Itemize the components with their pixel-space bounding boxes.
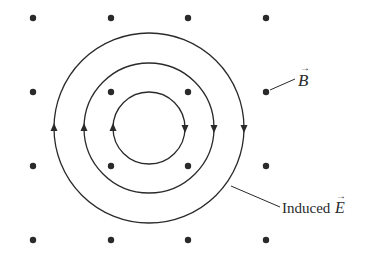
field-dot <box>108 89 114 95</box>
field-dot <box>108 237 114 243</box>
induced-e-circle-outer <box>51 33 248 223</box>
induced-e-circle-inner <box>110 92 189 164</box>
field-dot <box>108 15 114 21</box>
arrow-down-icon <box>241 125 248 133</box>
field-dot <box>30 163 36 169</box>
arrow-down-icon <box>211 125 218 133</box>
field-dot <box>263 237 269 243</box>
field-dot <box>30 237 36 243</box>
b-field-symbol: B <box>298 71 309 90</box>
field-dot <box>263 89 269 95</box>
field-dot <box>185 15 191 21</box>
arrow-up-icon <box>81 123 88 131</box>
e-field-symbol: E <box>334 199 345 216</box>
field-dot <box>263 15 269 21</box>
field-dot <box>30 15 36 21</box>
induced-field-circles <box>51 33 248 223</box>
arrow-up-icon <box>51 123 58 131</box>
b-field-leader-line <box>270 79 295 90</box>
field-dot <box>263 163 269 169</box>
arrow-up-icon <box>110 123 117 131</box>
induced-e-circle-middle <box>81 63 218 193</box>
induced-e-field-diagram: → B Induced → E <box>0 0 388 255</box>
induced-e-leader-line <box>231 186 280 207</box>
field-dot <box>185 163 191 169</box>
b-field-label: → B <box>270 62 310 90</box>
field-dot <box>185 237 191 243</box>
field-dot <box>108 163 114 169</box>
induced-e-prefix: Induced <box>282 200 331 216</box>
arrow-down-icon <box>182 125 189 133</box>
magnetic-field-dots <box>30 15 269 243</box>
induced-e-label: Induced → E <box>231 186 346 216</box>
field-dot <box>185 89 191 95</box>
field-dot <box>30 89 36 95</box>
